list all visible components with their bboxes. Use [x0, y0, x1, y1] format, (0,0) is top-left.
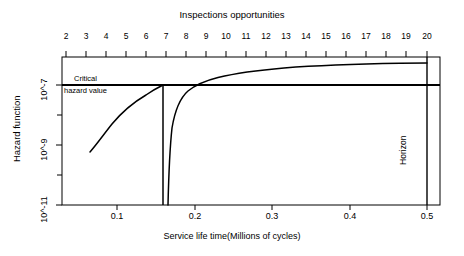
y-tick-label: 10^-11 — [40, 188, 49, 232]
x-tick-label: 0.5 — [412, 212, 442, 221]
top-axis-ticks — [66, 51, 427, 57]
plot-frame — [62, 57, 440, 205]
x-axis-title: Service life time(Millions of cycles) — [0, 232, 464, 241]
hazard-curve-segment-1 — [90, 85, 163, 152]
horizon-label: Horizon — [399, 120, 408, 180]
x-tick-label: 0.1 — [102, 212, 132, 221]
critical-hazard-value-label-line1: Critical — [74, 75, 97, 83]
y-tick-label: 10^-9 — [40, 128, 49, 172]
left-axis-ticks — [56, 85, 62, 205]
top-tick-label: 20 — [415, 32, 439, 41]
x-tick-label: 0.2 — [180, 212, 210, 221]
y-axis-title: Hazard function — [12, 69, 22, 189]
bottom-axis-ticks — [117, 205, 427, 210]
critical-hazard-value-label-line2: hazard value — [64, 87, 107, 95]
top-axis-title: Inspections opportunities — [0, 10, 464, 20]
x-tick-label: 0.4 — [335, 212, 365, 221]
x-tick-label: 0.3 — [257, 212, 287, 221]
y-tick-label: 10^-7 — [40, 68, 49, 112]
hazard-function-chart: Inspections opportunities Service life t… — [0, 0, 464, 256]
